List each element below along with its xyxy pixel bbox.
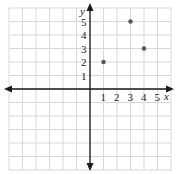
x-axis-label: x xyxy=(163,90,169,102)
x-tick-label: 4 xyxy=(141,91,147,103)
y-tick-label: 5 xyxy=(81,16,87,28)
x-tick-label: 1 xyxy=(101,91,107,103)
coordinate-plane: 1234512345 x y xyxy=(0,0,178,174)
y-axis-label: y xyxy=(79,5,85,17)
y-tick-label: 1 xyxy=(81,70,87,82)
data-point xyxy=(128,19,132,23)
x-tick-label: 2 xyxy=(114,91,120,103)
y-tick-label: 4 xyxy=(81,29,87,41)
y-tick-label: 2 xyxy=(81,56,87,68)
y-tick-label: 3 xyxy=(81,43,87,55)
left-arrow-icon xyxy=(4,86,12,93)
tick-labels: 1234512345 xyxy=(81,16,161,104)
axes xyxy=(4,3,174,171)
up-arrow-icon xyxy=(87,3,94,11)
x-tick-label: 3 xyxy=(128,91,134,103)
data-point xyxy=(101,60,105,64)
data-points xyxy=(101,19,146,64)
data-point xyxy=(142,46,146,50)
x-tick-label: 5 xyxy=(155,91,161,103)
